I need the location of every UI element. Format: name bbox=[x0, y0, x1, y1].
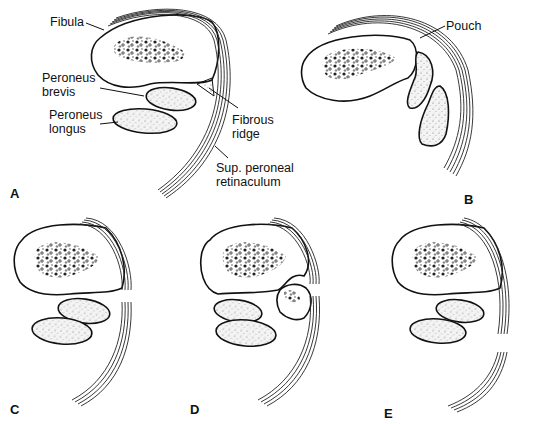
panel-label-a: A bbox=[10, 186, 20, 201]
label-peroneus-brevis-2: brevis bbox=[42, 85, 75, 99]
label-peroneus-longus-2: longus bbox=[49, 122, 86, 136]
panel-a: Fibula Peroneus brevis Peroneus longus F… bbox=[10, 9, 294, 201]
label-fibula: Fibula bbox=[50, 15, 84, 29]
label-fibrous-ridge-2: ridge bbox=[232, 127, 260, 141]
label-fibrous-ridge-1: Fibrous bbox=[232, 113, 274, 127]
panel-e: E bbox=[384, 218, 509, 421]
retinaculum-distal-midsubstance-tear bbox=[448, 352, 507, 412]
label-pouch: Pouch bbox=[446, 19, 481, 33]
peroneal-retinaculum-figure: Fibula Peroneus brevis Peroneus longus F… bbox=[0, 0, 556, 424]
panel-label-b: B bbox=[464, 192, 473, 207]
label-peroneus-longus-1: Peroneus bbox=[49, 108, 103, 122]
label-retinaculum-2: retinaculum bbox=[216, 175, 281, 189]
figure-canvas: Fibula Peroneus brevis Peroneus longus F… bbox=[0, 0, 556, 424]
panel-label-d: D bbox=[190, 402, 199, 417]
label-peroneus-brevis-1: Peroneus bbox=[42, 71, 96, 85]
panel-label-e: E bbox=[384, 406, 393, 421]
panel-d: D bbox=[190, 218, 320, 417]
panel-b: Pouch B bbox=[302, 16, 482, 207]
label-retinaculum-1: Sup. peroneal bbox=[216, 161, 294, 175]
panel-label-c: C bbox=[10, 402, 20, 417]
panel-c: C bbox=[10, 218, 131, 417]
